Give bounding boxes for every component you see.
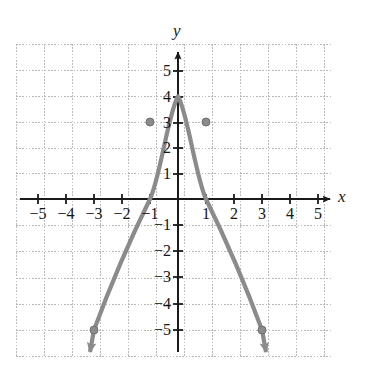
y-tick-label-1: 1 [153, 166, 171, 182]
y-axis-label: y [173, 22, 181, 39]
y-tick-label-4: 4 [153, 89, 171, 105]
y-tick-label--5: −5 [147, 322, 171, 338]
x-tick-label--5: −5 [27, 206, 49, 222]
y-tick-label--3: −3 [147, 269, 171, 285]
point-3-neg5 [258, 326, 266, 334]
y-tick-label--1: −1 [147, 217, 171, 233]
graph-page: y x −5 −4 −3 −2 −1 1 2 3 4 5 5 4 3 2 1 −… [0, 0, 366, 371]
parabola-graph-figure [0, 0, 366, 371]
x-tick-label-1: 1 [198, 206, 214, 222]
y-tick-label-2: 2 [153, 140, 171, 156]
grid-lines [16, 44, 333, 357]
y-tick-label-3: 3 [153, 115, 171, 131]
x-tick-label-4: 4 [282, 206, 298, 222]
point-1-3 [202, 118, 210, 126]
x-tick-label--2: −2 [111, 206, 133, 222]
point-neg3-neg5 [90, 326, 98, 334]
y-tick-label-5: 5 [153, 63, 171, 79]
x-tick-label--3: −3 [83, 206, 105, 222]
x-axis-label: x [338, 188, 346, 205]
y-tick-label--4: −4 [147, 296, 171, 312]
x-tick-label-5: 5 [310, 206, 326, 222]
x-tick-label-2: 2 [226, 206, 242, 222]
x-tick-label--4: −4 [55, 206, 77, 222]
x-tick-label-3: 3 [254, 206, 270, 222]
y-tick-label--2: −2 [147, 243, 171, 259]
